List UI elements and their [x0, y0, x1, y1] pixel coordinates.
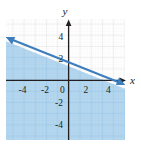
x-tick-label-pos2: 2: [84, 85, 89, 95]
x-tick-label-neg4: -4: [19, 85, 27, 95]
x-tick-label-zero: 0: [60, 85, 65, 95]
x-tick-label-neg2: -2: [41, 85, 49, 95]
y-tick-label-pos4: 4: [59, 32, 64, 42]
y-tick-label-neg2: -2: [55, 98, 63, 108]
coordinate-plane-svg: y x -4 -2 0 2 4 4 2 -2 -4: [0, 0, 141, 150]
y-tick-label-neg4: -4: [55, 120, 63, 130]
y-axis-label: y: [62, 5, 68, 17]
y-tick-label-pos2: 2: [59, 54, 64, 64]
inequality-graph: y x -4 -2 0 2 4 4 2 -2 -4: [0, 0, 141, 150]
x-tick-label-pos4: 4: [106, 85, 111, 95]
x-axis-label: x: [129, 74, 135, 86]
